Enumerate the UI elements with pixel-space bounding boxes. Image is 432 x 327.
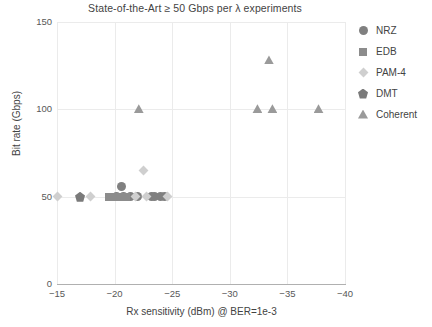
legend-item-dmt[interactable]: DMT <box>357 83 432 104</box>
legend-label: PAM-4 <box>376 67 406 78</box>
legend-triangle-icon <box>357 109 369 121</box>
x-tick-label: −20 <box>95 288 135 299</box>
diamond-marker <box>138 166 148 176</box>
gridline-vertical <box>230 22 231 284</box>
y-axis-label: Bit rate (Gbps) <box>11 64 22 184</box>
gridline-vertical <box>57 22 58 284</box>
gridline-vertical <box>287 22 288 284</box>
legend-label: DMT <box>376 88 398 99</box>
x-axis-label: Rx sensitivity (dBm) @ BER=1e-3 <box>57 306 346 317</box>
x-tick-label: −40 <box>325 288 365 299</box>
x-tick-label: −15 <box>37 288 77 299</box>
plot-area <box>57 22 345 284</box>
square-marker <box>122 193 130 201</box>
legend-diamond-icon <box>357 67 369 79</box>
y-tick-label: 50 <box>24 191 52 202</box>
legend-label: EDB <box>376 46 397 57</box>
legend-label: Coherent <box>376 109 417 120</box>
legend-pentagon-icon <box>357 88 369 100</box>
legend-square-icon <box>357 46 369 58</box>
chart-figure: State-of-the-Art ≥ 50 Gbps per λ experim… <box>0 0 432 327</box>
x-tick-label: −35 <box>267 288 307 299</box>
circle-marker <box>117 182 126 191</box>
legend-label: NRZ <box>376 25 397 36</box>
chart-legend: NRZEDBPAM-4DMTCoherent <box>357 20 432 125</box>
x-tick-label: −25 <box>152 288 192 299</box>
legend-item-edb[interactable]: EDB <box>357 41 432 62</box>
gridline-vertical <box>345 22 346 284</box>
x-axis-line <box>57 284 346 285</box>
y-tick-label: 100 <box>24 103 52 114</box>
gridline-vertical <box>172 22 173 284</box>
legend-circle-icon <box>357 25 369 37</box>
gridline-horizontal <box>57 109 345 110</box>
gridline-horizontal <box>57 197 345 198</box>
triangle-marker <box>264 55 274 64</box>
y-axis-tick-labels: 050100150 <box>20 0 52 327</box>
legend-item-pam-4[interactable]: PAM-4 <box>357 62 432 83</box>
pentagon-marker <box>75 192 85 202</box>
gridline-vertical <box>115 22 116 284</box>
x-tick-label: −30 <box>210 288 250 299</box>
legend-item-nrz[interactable]: NRZ <box>357 20 432 41</box>
diamond-marker <box>52 192 62 202</box>
diamond-marker <box>85 192 95 202</box>
gridline-horizontal <box>57 22 345 23</box>
y-tick-label: 150 <box>24 16 52 27</box>
chart-title: State-of-the-Art ≥ 50 Gbps per λ experim… <box>0 2 390 14</box>
legend-item-coherent[interactable]: Coherent <box>357 104 432 125</box>
